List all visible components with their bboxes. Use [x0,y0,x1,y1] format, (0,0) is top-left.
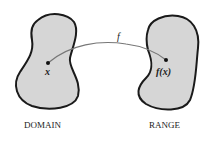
domain-point [46,61,50,65]
domain-point-label: x [44,66,50,77]
range-point [164,58,168,62]
function-diagram: f x f(x) DOMAIN RANGE [0,0,209,145]
mapping-label: f [117,31,121,42]
range-label: RANGE [149,120,181,130]
range-region [138,16,198,110]
range-point-label: f(x) [156,66,171,78]
domain-label: DOMAIN [24,120,61,130]
